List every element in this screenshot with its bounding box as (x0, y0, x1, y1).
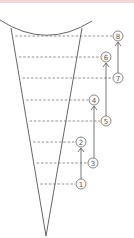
level-number: 5 (104, 118, 108, 126)
level-number: 3 (91, 160, 95, 168)
level-number: 8 (116, 33, 120, 41)
level-marker-1: 1 (76, 179, 86, 189)
level-number: 7 (116, 75, 120, 83)
arrow-7-to-8 (115, 42, 121, 73)
level-marker-5: 5 (101, 116, 111, 126)
cone-outline (11, 28, 82, 236)
level-number: 2 (79, 139, 83, 147)
arrow-3-to-4 (91, 106, 97, 158)
level-marker-3: 3 (88, 158, 98, 168)
arrows (78, 42, 121, 179)
cone-diagram: 86745231 (0, 0, 134, 238)
level-marker-7: 7 (113, 73, 123, 83)
rim-arc (0, 20, 92, 35)
level-markers: 86745231 (76, 31, 123, 189)
level-marker-2: 2 (76, 137, 86, 147)
level-number: 4 (92, 97, 97, 105)
level-number: 1 (79, 181, 83, 189)
level-marker-4: 4 (89, 95, 99, 105)
level-number: 6 (104, 54, 109, 62)
arrow-5-to-6 (103, 63, 109, 116)
level-marker-6: 6 (101, 52, 111, 62)
level-marker-8: 8 (113, 31, 123, 41)
arrow-1-to-2 (78, 148, 84, 179)
